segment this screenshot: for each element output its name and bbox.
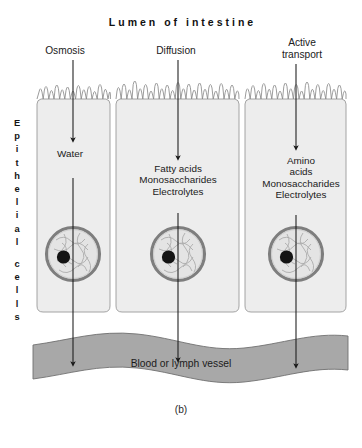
side-label-glyph: a (8, 223, 26, 236)
side-label-glyph: p (8, 130, 26, 143)
epithelial-cell-left (37, 85, 110, 313)
figure-caption: (b) (0, 404, 362, 416)
side-label-glyph: e (8, 271, 26, 284)
nucleolus-middle (162, 250, 175, 263)
substance-label-osmosis: Water (28, 148, 112, 159)
process-label-diffusion: Diffusion (130, 45, 222, 57)
side-label-glyph: c (8, 258, 26, 271)
side-label-glyph: l (8, 298, 26, 311)
side-label-glyph: i (8, 209, 26, 222)
side-label-glyph: t (8, 157, 26, 170)
side-label-glyph: h (8, 170, 26, 183)
vessel-label: Blood or lymph vessel (0, 358, 362, 370)
process-label-active-transport: Active transport (258, 37, 346, 60)
substance-label-active-transport: Amino acids Monosaccharides Electrolytes (243, 155, 359, 200)
microvilli-left (37, 85, 110, 100)
nucleolus-left (57, 250, 70, 263)
substance-label-diffusion: Fatty acids Monosaccharides Electrolytes (120, 163, 236, 197)
epithelial-cells-side-label: Epithelialcells (8, 117, 26, 324)
side-label-glyph: l (8, 196, 26, 209)
side-label-glyph (8, 249, 26, 258)
side-label-glyph: l (8, 284, 26, 297)
process-label-osmosis: Osmosis (22, 45, 108, 57)
side-label-glyph: e (8, 183, 26, 196)
side-label-glyph: l (8, 236, 26, 249)
side-label-glyph: E (8, 117, 26, 130)
absorption-diagram: Lumen of intestine Osmosis Diffusion Act… (0, 0, 362, 448)
diagram-canvas (0, 0, 362, 448)
nucleolus-right (280, 250, 293, 263)
side-label-glyph: i (8, 143, 26, 156)
page-title: Lumen of intestine (0, 17, 362, 29)
side-label-glyph: s (8, 311, 26, 324)
